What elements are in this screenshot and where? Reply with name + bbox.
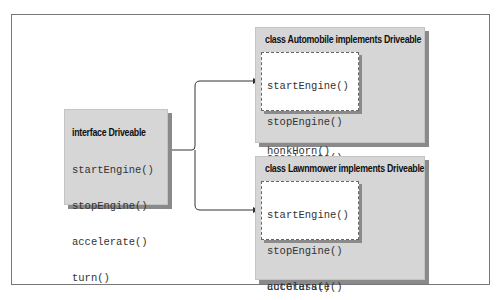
implemented-method: startEngine(): [267, 80, 358, 92]
implemented-method: startEngine(): [267, 209, 358, 221]
automobile-title: class Automobile implements Driveable: [265, 34, 405, 45]
lawnmower-interface-methods: startEngine() stopEngine() accelerate() …: [261, 181, 359, 240]
interface-method: accelerate(): [72, 236, 167, 248]
interface-driveable-box: interface Driveable startEngine() stopEn…: [64, 109, 168, 205]
interface-title: interface Driveable: [72, 127, 156, 138]
interface-method: stopEngine(): [72, 200, 167, 212]
own-method: cutGrass(): [267, 281, 330, 293]
interface-method: turn(): [72, 272, 167, 284]
class-lawnmower-box: class Lawnmower implements Driveable sta…: [255, 156, 425, 280]
automobile-interface-methods: startEngine() stopEngine() accelerate() …: [261, 52, 359, 111]
lawnmower-title: class Lawnmower implements Driveable: [265, 163, 405, 174]
implemented-method: stopEngine(): [267, 245, 358, 257]
interface-method: startEngine(): [72, 164, 167, 176]
class-automobile-box: class Automobile implements Driveable st…: [255, 27, 425, 143]
